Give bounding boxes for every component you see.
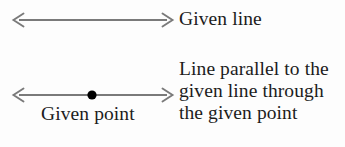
parallel-line-arrow xyxy=(14,89,173,102)
given-line-arrow xyxy=(14,14,173,27)
parallel-line-description-line-2: given line through xyxy=(179,80,345,102)
parallel-line-description-line-1: Line parallel to the xyxy=(179,58,345,80)
given-line-label: Given line xyxy=(179,8,262,30)
parallel-line-description: Line parallel to the given line through … xyxy=(179,58,345,124)
given-point-dot xyxy=(87,90,96,99)
parallel-line-description-line-3: the given point xyxy=(179,102,345,124)
geometry-figure: Given line Given point Line parallel to … xyxy=(0,0,345,147)
given-point-label: Given point xyxy=(41,103,135,125)
